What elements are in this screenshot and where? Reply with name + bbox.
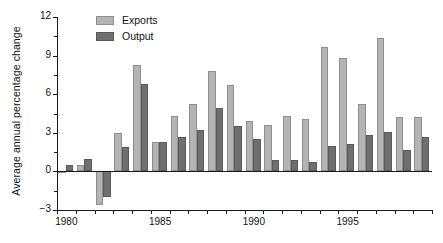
bar-chart: Average annual percentage change −303691… xyxy=(0,0,443,243)
bar-output-1994 xyxy=(328,146,336,172)
bar-output-1988 xyxy=(216,108,224,171)
bar-exports-1995 xyxy=(339,58,347,171)
bar-exports-1988 xyxy=(208,71,216,171)
x-tick xyxy=(57,210,58,214)
x-tick xyxy=(76,210,77,214)
x-tick xyxy=(95,210,96,214)
x-tick xyxy=(301,210,302,214)
bar-exports-1992 xyxy=(283,116,291,171)
x-tick xyxy=(263,210,264,214)
y-tick-major xyxy=(53,133,57,134)
bar-exports-1994 xyxy=(321,47,329,172)
x-tick xyxy=(188,210,189,214)
bar-output-1999 xyxy=(422,137,430,172)
bar-exports-1998 xyxy=(396,117,404,171)
bar-exports-1986 xyxy=(171,116,179,171)
y-tick-minor xyxy=(54,152,57,153)
legend-label-exports: Exports xyxy=(122,15,158,26)
bar-exports-1989 xyxy=(227,85,235,171)
x-tick-label: 1990 xyxy=(234,216,274,227)
bar-output-1984 xyxy=(141,84,149,171)
y-tick-label: 6 xyxy=(25,87,51,98)
bar-output-1993 xyxy=(309,162,317,171)
x-tick xyxy=(395,210,396,214)
bar-output-1996 xyxy=(366,135,374,171)
y-tick-major xyxy=(53,56,57,57)
bar-output-1992 xyxy=(291,160,299,172)
bar-exports-1993 xyxy=(302,119,310,172)
bar-output-1990 xyxy=(253,139,261,171)
bar-output-1987 xyxy=(197,130,205,171)
bar-exports-1987 xyxy=(189,104,197,171)
bar-output-1995 xyxy=(347,144,355,171)
bar-exports-1982 xyxy=(96,171,104,204)
y-tick-minor xyxy=(54,36,57,37)
bar-output-1989 xyxy=(234,126,242,171)
bar-output-1991 xyxy=(272,160,280,172)
x-tick xyxy=(170,210,171,214)
legend-label-output: Output xyxy=(122,31,154,42)
x-tick-label: 1980 xyxy=(46,216,86,227)
y-tick-major xyxy=(53,17,57,18)
bar-output-1997 xyxy=(384,132,392,172)
x-tick xyxy=(132,210,133,214)
x-tick xyxy=(151,210,152,214)
x-tick xyxy=(338,210,339,214)
x-tick xyxy=(357,210,358,214)
y-tick-label: 3 xyxy=(25,126,51,137)
x-tick xyxy=(320,210,321,214)
bar-output-1998 xyxy=(403,150,411,172)
legend-swatch-output xyxy=(96,32,114,41)
y-axis-title: Average annual percentage change xyxy=(10,11,22,211)
bar-output-1982 xyxy=(103,171,111,197)
bar-exports-1999 xyxy=(414,117,422,171)
bar-output-1981 xyxy=(84,159,92,172)
y-tick-minor xyxy=(54,191,57,192)
bar-output-1986 xyxy=(178,137,186,172)
zero-line xyxy=(57,171,432,172)
y-axis-line xyxy=(57,17,58,210)
x-tick xyxy=(282,210,283,214)
y-tick-minor xyxy=(54,75,57,76)
y-tick-label: 9 xyxy=(25,49,51,60)
bar-exports-1991 xyxy=(264,125,272,171)
x-tick-label: 1995 xyxy=(328,216,368,227)
x-tick xyxy=(245,210,246,214)
x-tick xyxy=(432,210,433,214)
bar-exports-1996 xyxy=(358,104,366,171)
legend-item-exports: Exports xyxy=(96,14,158,27)
y-tick-label: −3 xyxy=(25,203,51,214)
x-tick xyxy=(207,210,208,214)
bar-output-1983 xyxy=(122,147,130,171)
bar-output-1985 xyxy=(159,142,167,172)
y-tick-label: 0 xyxy=(25,164,51,175)
chart-legend: Exports Output xyxy=(96,14,158,46)
y-tick-label: 12 xyxy=(25,10,51,21)
bar-exports-1985 xyxy=(152,142,160,172)
x-tick xyxy=(226,210,227,214)
legend-item-output: Output xyxy=(96,30,158,43)
x-tick-label: 1985 xyxy=(140,216,180,227)
x-tick xyxy=(113,210,114,214)
bar-exports-1990 xyxy=(246,121,254,171)
x-tick xyxy=(376,210,377,214)
bar-exports-1983 xyxy=(114,133,122,172)
bar-exports-1997 xyxy=(377,38,385,172)
bar-exports-1984 xyxy=(133,65,141,172)
y-tick-minor xyxy=(54,114,57,115)
y-tick-major xyxy=(53,94,57,95)
legend-swatch-exports xyxy=(96,16,114,25)
x-tick xyxy=(413,210,414,214)
